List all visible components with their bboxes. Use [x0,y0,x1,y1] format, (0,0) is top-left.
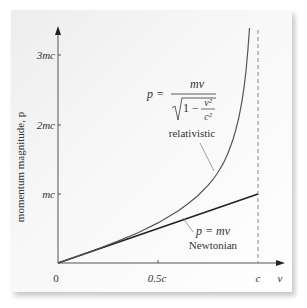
relativistic-eq-den-c2: c² [204,111,212,122]
relativistic-label: relativistic [169,127,216,139]
y-tick-label-2mc: 2mc [37,119,55,131]
relativistic-eq-lhs: p = [146,87,164,101]
x-tick-label-half-c: 0.5c [148,272,167,284]
momentum-chart: 3mc 2mc mc 0 0.5c c v momentum magnitude… [0,0,307,308]
newtonian-label: Newtonian [189,239,238,251]
relativistic-eq-numerator: mv [190,77,205,91]
newtonian-leader-line [183,218,193,232]
y-axis-arrow-icon [55,26,61,35]
y-tick-label-3mc: 3mc [36,49,55,61]
relativistic-eq-den-v2: v² [204,97,212,108]
x-axis-label: v [278,272,283,284]
x-tick-label-0: 0 [53,272,59,284]
x-tick-label-c: c [256,272,261,284]
newtonian-eq: p = mv [195,224,231,238]
y-tick-label-mc: mc [42,188,55,200]
x-axis-arrow-icon [276,260,285,266]
relativistic-leader-line [200,143,214,171]
relativistic-eq-den-one: 1 − [183,101,199,115]
y-axis-label: momentum magnitude, p [14,111,26,222]
